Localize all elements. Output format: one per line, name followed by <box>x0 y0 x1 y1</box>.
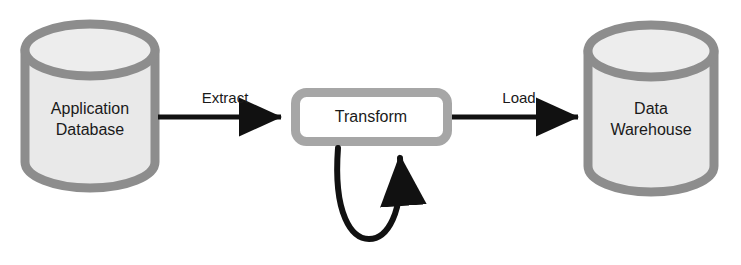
data-warehouse-label-line1: Data <box>634 100 668 117</box>
load-label: Load <box>502 89 535 106</box>
edge-extract: Extract <box>158 89 281 117</box>
extract-label: Extract <box>202 89 250 106</box>
node-application-database[interactable]: Application Database <box>25 24 155 188</box>
data-warehouse-cylinder-top <box>588 25 714 77</box>
transform-label: Transform <box>335 108 407 125</box>
application-database-label-line2: Database <box>56 121 125 138</box>
data-warehouse-label-line2: Warehouse <box>610 121 691 138</box>
application-database-label-line1: Application <box>51 100 129 117</box>
node-transform[interactable]: Transform <box>296 93 448 142</box>
node-data-warehouse[interactable]: Data Warehouse <box>588 25 714 192</box>
etl-diagram: Application Database Extract Transform L… <box>0 0 741 265</box>
edge-transform-self-loop <box>337 148 400 239</box>
edge-load: Load <box>452 89 578 117</box>
application-database-cylinder-top <box>25 24 155 76</box>
transform-self-loop-path <box>337 148 400 239</box>
etl-diagram-canvas: Application Database Extract Transform L… <box>0 0 741 265</box>
